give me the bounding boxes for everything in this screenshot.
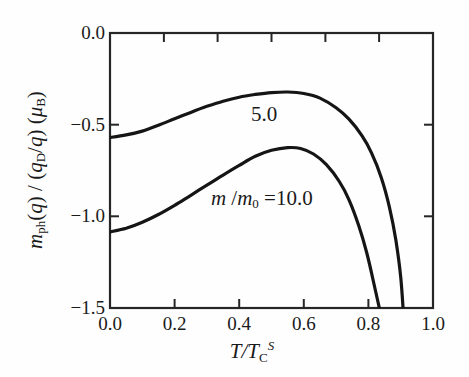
label-part: T: [247, 339, 259, 363]
label-part: D: [33, 153, 48, 162]
label-part: B: [33, 98, 48, 107]
plot-svg: [0, 0, 469, 377]
label-part: q: [23, 137, 47, 148]
curve: [110, 92, 403, 312]
label-part: m: [23, 234, 47, 249]
label-part: S: [268, 338, 275, 353]
label-part: /: [23, 147, 47, 153]
y-axis-title: mph(q) / (qD/q) (μB): [23, 91, 50, 249]
label-part: ): [23, 91, 47, 98]
label-part: ph: [33, 221, 48, 234]
plot-frame: [110, 33, 433, 308]
x-axis-title: T/TCS: [230, 338, 274, 365]
figure-page: mph(q) / (qD/q) (μB) T/TCS 0.00.20.40.60…: [0, 0, 469, 377]
label-part: q: [23, 203, 47, 214]
label-part: C: [259, 350, 268, 365]
curve: [110, 147, 381, 313]
label-part: q: [23, 162, 47, 173]
label-part: (: [23, 214, 47, 221]
label-part: μ: [23, 107, 47, 118]
label-part: T: [230, 339, 242, 363]
label-part: ) / (: [23, 173, 47, 203]
label-part: ) (: [23, 117, 47, 136]
